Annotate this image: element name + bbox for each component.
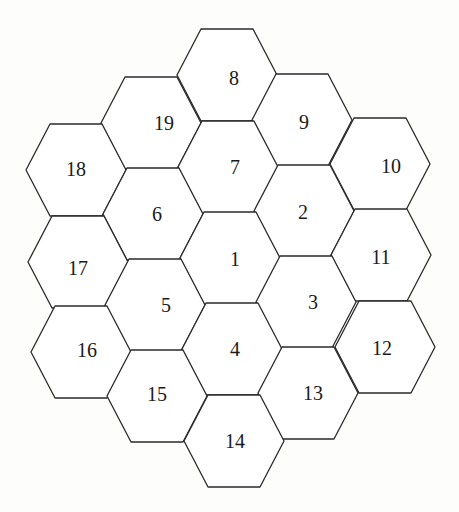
hex-cell-diagram: 81991871062171115316412151314 [0, 0, 459, 512]
cell-label: 17 [68, 257, 88, 279]
cell-label: 1 [230, 248, 240, 270]
cell-label: 10 [381, 155, 401, 177]
cell-label: 2 [298, 201, 308, 223]
cell-label: 5 [161, 294, 171, 316]
cell-label: 3 [308, 291, 318, 313]
cell-label: 13 [303, 382, 323, 404]
cell-label: 7 [230, 156, 240, 178]
cell-label: 16 [77, 339, 97, 361]
cell-label: 8 [229, 67, 239, 89]
cell-label: 6 [152, 203, 162, 225]
cell-label: 4 [230, 338, 240, 360]
cell-label: 19 [154, 112, 174, 134]
cell-label: 12 [372, 337, 392, 359]
cell-label: 11 [371, 246, 390, 268]
cell-label: 14 [225, 430, 245, 452]
cell-label: 9 [299, 111, 309, 133]
cell-label: 15 [147, 383, 167, 405]
cell-label: 18 [66, 158, 86, 180]
cells-layer: 81991871062171115316412151314 [26, 29, 435, 487]
